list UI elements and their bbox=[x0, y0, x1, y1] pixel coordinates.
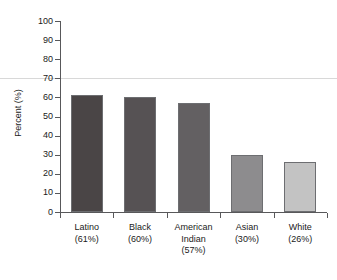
y-axis-tick bbox=[55, 136, 60, 137]
y-axis-tick-label: 70 bbox=[43, 74, 53, 83]
y-axis-line bbox=[60, 21, 61, 213]
x-axis-tick bbox=[327, 213, 328, 218]
y-axis-tick bbox=[55, 174, 60, 175]
y-axis-tick-label: 50 bbox=[43, 112, 53, 121]
y-axis-tick bbox=[55, 97, 60, 98]
x-axis-label-line: (26%) bbox=[267, 234, 334, 246]
x-axis-tick bbox=[60, 213, 61, 218]
x-axis-tick bbox=[113, 213, 114, 218]
plot-area: 1009080706050403020100 Percent (%) Latin… bbox=[0, 0, 337, 280]
y-axis-tick-label: 40 bbox=[43, 131, 53, 140]
y-axis-tick-label: 10 bbox=[43, 188, 53, 197]
y-axis-tick bbox=[55, 21, 60, 22]
x-axis-tick bbox=[274, 213, 275, 218]
y-axis-tick bbox=[55, 155, 60, 156]
y-axis-tick-label: 60 bbox=[43, 93, 53, 102]
chart-figure: 1009080706050403020100 Percent (%) Latin… bbox=[0, 0, 337, 280]
x-axis-line bbox=[60, 212, 327, 213]
y-axis-tick bbox=[55, 40, 60, 41]
y-axis-tick bbox=[55, 193, 60, 194]
bar bbox=[231, 155, 263, 212]
y-axis-tick-label: 0 bbox=[48, 208, 53, 217]
y-axis-tick bbox=[55, 78, 60, 79]
bar bbox=[178, 103, 210, 212]
y-axis-tick-label: 30 bbox=[43, 150, 53, 159]
y-axis-tick-label: 90 bbox=[43, 36, 53, 45]
x-axis-label: White(26%) bbox=[267, 222, 334, 245]
y-axis-tick bbox=[55, 117, 60, 118]
bar bbox=[124, 97, 156, 212]
x-axis-tick bbox=[167, 213, 168, 218]
y-axis-tick-label: 20 bbox=[43, 169, 53, 178]
x-axis-label-line: (57%) bbox=[160, 245, 227, 257]
y-axis-tick-label: 100 bbox=[38, 17, 53, 26]
bar bbox=[71, 95, 103, 212]
y-axis-tick bbox=[55, 59, 60, 60]
bar bbox=[284, 162, 316, 212]
y-axis-tick-label: 80 bbox=[43, 55, 53, 64]
x-axis-tick bbox=[220, 213, 221, 218]
y-axis-title: Percent (%) bbox=[13, 73, 23, 153]
x-axis-label-line: White bbox=[267, 222, 334, 234]
